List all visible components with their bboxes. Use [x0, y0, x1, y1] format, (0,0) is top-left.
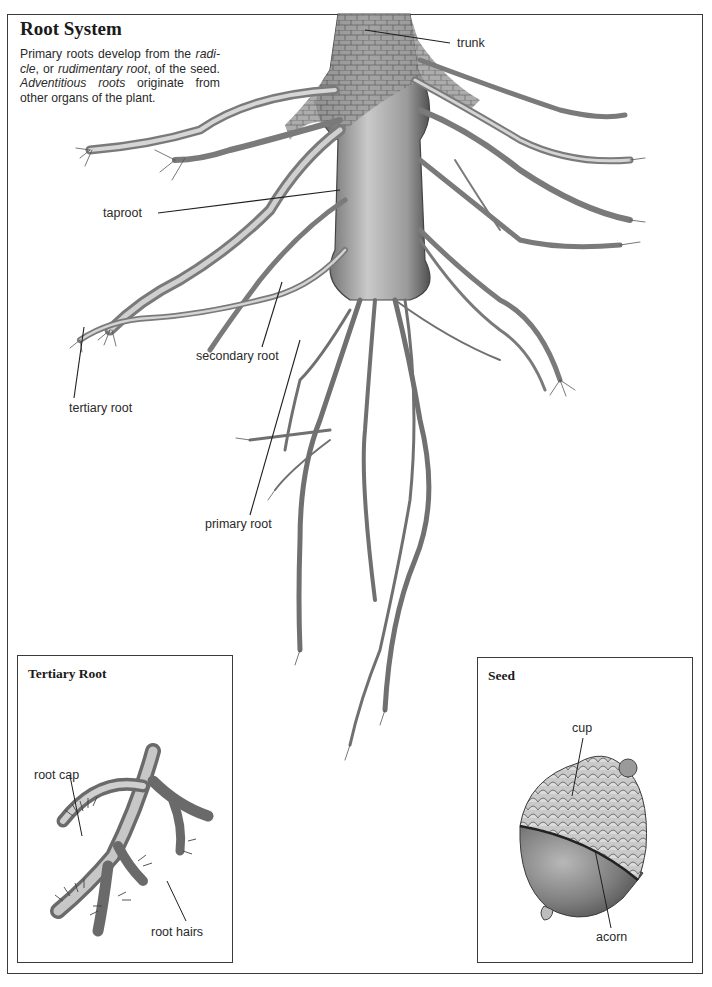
inset-tertiary-root: Tertiary Root root cap root hairs — [17, 655, 233, 963]
label-taproot: taproot — [103, 206, 142, 220]
label-root-hairs: root hairs — [151, 925, 203, 939]
label-secondary-root: secondary root — [196, 349, 279, 363]
label-acorn: acorn — [596, 930, 627, 944]
label-trunk: trunk — [457, 36, 485, 50]
label-root-cap: root cap — [34, 768, 79, 782]
tertiary-root-illustration — [18, 656, 234, 964]
inset-seed: Seed cup acorn — [477, 657, 693, 963]
label-tertiary-root: tertiary root — [69, 401, 132, 415]
label-primary-root: primary root — [205, 517, 272, 531]
page-title: Root System — [20, 18, 122, 40]
intro-paragraph: Primary roots develop from the radi-cle,… — [20, 47, 220, 105]
label-cup: cup — [572, 721, 592, 735]
acorn-illustration — [478, 658, 694, 964]
